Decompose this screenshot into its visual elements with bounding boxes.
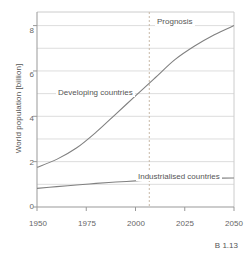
figure-world-population: World population [billion] 8 6 4 2 0 195…	[0, 0, 248, 255]
annotation-developing-countries: Developing countries	[56, 88, 135, 97]
gridlines	[37, 26, 234, 185]
x-tick-marks	[37, 207, 234, 211]
annotation-industrialised-countries: Industrialised countries	[136, 172, 222, 181]
y-tick-marks	[33, 26, 37, 207]
chart-plot-area	[0, 0, 248, 255]
annotation-prognosis: Prognosis	[155, 17, 195, 26]
figure-caption: B 1.13	[215, 241, 238, 250]
